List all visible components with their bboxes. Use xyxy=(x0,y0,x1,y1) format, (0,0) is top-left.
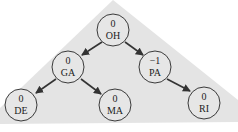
avl-tree-diagram: 0 OH 0 GA −1 PA 0 DE 0 MA 0 RI xyxy=(0,0,238,132)
node-label: PA xyxy=(149,67,162,78)
balance-factor: 0 xyxy=(202,91,207,102)
balance-factor: 0 xyxy=(113,93,118,104)
balance-factor: 0 xyxy=(66,55,71,66)
tree-node-oh: 0 OH xyxy=(97,14,129,46)
node-label: GA xyxy=(61,67,76,78)
tree-node-ga: 0 GA xyxy=(52,51,84,83)
node-label: MA xyxy=(107,105,124,116)
balance-factor: 0 xyxy=(19,93,24,104)
balance-factor: 0 xyxy=(111,18,116,29)
tree-node-ma: 0 MA xyxy=(99,89,131,121)
tree-node-de: 0 DE xyxy=(5,89,37,121)
tree-node-ri: 0 RI xyxy=(188,87,220,119)
node-label: DE xyxy=(14,105,27,116)
node-label: OH xyxy=(106,30,120,41)
balance-factor: −1 xyxy=(150,55,161,66)
node-label: RI xyxy=(199,103,209,114)
tree-node-pa: −1 PA xyxy=(139,51,171,83)
